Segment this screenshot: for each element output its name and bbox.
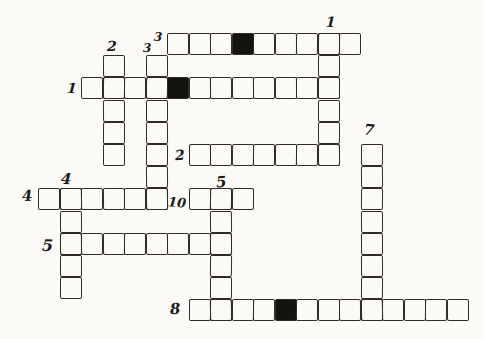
clue-number-4-down: 4 bbox=[61, 172, 72, 187]
crossword-cell[interactable] bbox=[102, 77, 124, 99]
black-cell bbox=[274, 299, 296, 321]
crossword-cell[interactable] bbox=[360, 233, 382, 255]
crossword-cell[interactable] bbox=[360, 299, 382, 321]
crossword-cell[interactable] bbox=[231, 188, 253, 210]
crossword-cell[interactable] bbox=[59, 277, 81, 299]
clue-number-5-across: 5 bbox=[42, 238, 54, 254]
clue-number-3-across: 3 bbox=[154, 31, 163, 43]
crossword-cell[interactable] bbox=[188, 33, 210, 55]
crossword-cell[interactable] bbox=[188, 188, 210, 210]
crossword-cell[interactable] bbox=[274, 77, 296, 99]
crossword-cell[interactable] bbox=[167, 33, 189, 55]
crossword-cell[interactable] bbox=[317, 33, 339, 55]
crossword-cell[interactable] bbox=[425, 299, 447, 321]
crossword-cell[interactable] bbox=[210, 33, 232, 55]
crossword-cell[interactable] bbox=[317, 77, 339, 99]
clue-number-4-across: 4 bbox=[22, 189, 33, 205]
clue-number-1-down: 1 bbox=[326, 15, 336, 29]
crossword-cell[interactable] bbox=[81, 77, 103, 99]
crossword-cell[interactable] bbox=[382, 299, 404, 321]
crossword-cell[interactable] bbox=[188, 144, 210, 166]
crossword-cell[interactable] bbox=[231, 299, 253, 321]
crossword-cell[interactable] bbox=[102, 144, 124, 166]
clue-number-7-down: 7 bbox=[363, 123, 375, 139]
crossword-cell[interactable] bbox=[274, 33, 296, 55]
crossword-cell[interactable] bbox=[145, 77, 167, 99]
crossword-cell[interactable] bbox=[210, 188, 232, 210]
crossword-cell[interactable] bbox=[360, 277, 382, 299]
clue-number-1-across: 1 bbox=[67, 81, 78, 96]
crossword-cell[interactable] bbox=[59, 188, 81, 210]
crossword-cell[interactable] bbox=[360, 166, 382, 188]
crossword-cell[interactable] bbox=[317, 55, 339, 77]
crossword-cell[interactable] bbox=[38, 188, 60, 210]
clue-number-2-down: 2 bbox=[107, 39, 117, 53]
clue-number-3-down: 3 bbox=[143, 42, 151, 54]
crossword-cell[interactable] bbox=[296, 33, 318, 55]
black-cell bbox=[231, 33, 253, 55]
crossword-cell[interactable] bbox=[360, 255, 382, 277]
crossword-cell[interactable] bbox=[145, 100, 167, 122]
clue-number-5-down: 5 bbox=[215, 175, 227, 191]
crossword-cell[interactable] bbox=[296, 144, 318, 166]
crossword-cell[interactable] bbox=[360, 188, 382, 210]
crossword-cell[interactable] bbox=[102, 55, 124, 77]
crossword-cell[interactable] bbox=[124, 77, 146, 99]
crossword-cell[interactable] bbox=[59, 211, 81, 233]
crossword-cell[interactable] bbox=[231, 144, 253, 166]
crossword-cell[interactable] bbox=[210, 299, 232, 321]
crossword-cell[interactable] bbox=[102, 122, 124, 144]
crossword-cell[interactable] bbox=[59, 233, 81, 255]
crossword-cell[interactable] bbox=[145, 55, 167, 77]
crossword-cell[interactable] bbox=[210, 255, 232, 277]
black-cell bbox=[167, 77, 189, 99]
clue-number-8-across: 8 bbox=[170, 302, 181, 318]
crossword-cell[interactable] bbox=[317, 122, 339, 144]
crossword-cell[interactable] bbox=[296, 77, 318, 99]
crossword-cell[interactable] bbox=[59, 255, 81, 277]
crossword-cell[interactable] bbox=[81, 233, 103, 255]
crossword-cell[interactable] bbox=[253, 144, 275, 166]
crossword-cell[interactable] bbox=[145, 233, 167, 255]
crossword-cell[interactable] bbox=[210, 211, 232, 233]
crossword-cell[interactable] bbox=[210, 277, 232, 299]
crossword-cell[interactable] bbox=[102, 233, 124, 255]
crossword-cell[interactable] bbox=[403, 299, 425, 321]
crossword-cell[interactable] bbox=[145, 144, 167, 166]
crossword-cell[interactable] bbox=[446, 299, 468, 321]
crossword-stage: 12331274451058 bbox=[0, 0, 483, 339]
crossword-cell[interactable] bbox=[317, 100, 339, 122]
crossword-cell[interactable] bbox=[253, 33, 275, 55]
crossword-cell[interactable] bbox=[360, 210, 382, 232]
crossword-cell[interactable] bbox=[167, 233, 189, 255]
crossword-cell[interactable] bbox=[124, 188, 146, 210]
crossword-cell[interactable] bbox=[188, 299, 210, 321]
crossword-cell[interactable] bbox=[124, 233, 146, 255]
crossword-cell[interactable] bbox=[188, 77, 210, 99]
crossword-cell[interactable] bbox=[145, 122, 167, 144]
crossword-cell[interactable] bbox=[231, 77, 253, 99]
crossword-cell[interactable] bbox=[145, 166, 167, 188]
crossword-cell[interactable] bbox=[296, 299, 318, 321]
crossword-cell[interactable] bbox=[274, 144, 296, 166]
crossword-cell[interactable] bbox=[102, 188, 124, 210]
clue-number-10-across: 10 bbox=[167, 195, 186, 209]
crossword-cell[interactable] bbox=[360, 144, 382, 166]
crossword-cell[interactable] bbox=[339, 33, 361, 55]
crossword-cell[interactable] bbox=[339, 299, 361, 321]
crossword-cell[interactable] bbox=[188, 233, 210, 255]
crossword-cell[interactable] bbox=[210, 144, 232, 166]
crossword-cell[interactable] bbox=[253, 299, 275, 321]
clue-number-2-across: 2 bbox=[175, 148, 186, 163]
crossword-cell[interactable] bbox=[102, 100, 124, 122]
crossword-cell[interactable] bbox=[317, 144, 339, 166]
crossword-cell[interactable] bbox=[317, 299, 339, 321]
crossword-cell[interactable] bbox=[253, 77, 275, 99]
crossword-cell[interactable] bbox=[210, 77, 232, 99]
crossword-cell[interactable] bbox=[81, 188, 103, 210]
crossword-cell[interactable] bbox=[210, 233, 232, 255]
crossword-cell[interactable] bbox=[145, 188, 167, 210]
